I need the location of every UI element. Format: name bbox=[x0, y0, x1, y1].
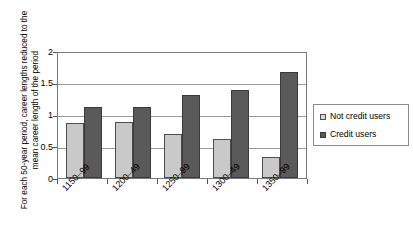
x-tick-mark-2 bbox=[157, 179, 158, 184]
light-swatch-icon bbox=[320, 114, 326, 120]
legend-item-credit-users: Credit users bbox=[320, 130, 376, 139]
x-tick-mark-5 bbox=[307, 179, 308, 184]
legend: Not credit users Credit users bbox=[313, 104, 409, 146]
x-tick-mark-3 bbox=[207, 179, 208, 184]
legend-item-not-credit-users: Not credit users bbox=[320, 112, 390, 121]
y-tick-label-1: 1 bbox=[23, 111, 53, 120]
legend-label-credit-users: Credit users bbox=[330, 130, 376, 139]
legend-label-not-credit-users: Not credit users bbox=[330, 112, 390, 121]
dark-swatch-icon bbox=[320, 132, 326, 138]
y-tick-label-0-5: 0.5 bbox=[23, 143, 53, 152]
x-tick-mark-4 bbox=[257, 179, 258, 184]
x-tick-mark-1 bbox=[107, 179, 108, 184]
y-tick-label-1-5: 1.5 bbox=[23, 79, 53, 88]
plot-area bbox=[57, 52, 307, 179]
y-tick-label-0: 0 bbox=[23, 175, 53, 184]
y-tick-label-2: 2 bbox=[23, 48, 53, 57]
gridline-1-5 bbox=[58, 84, 306, 85]
x-tick-mark-0 bbox=[57, 179, 58, 184]
bar-chart: For each 50-year period, career lengths … bbox=[0, 0, 413, 237]
